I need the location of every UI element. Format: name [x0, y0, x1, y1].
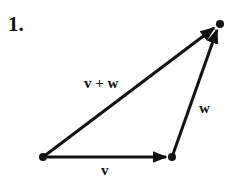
- problem-number: 1.: [8, 12, 24, 36]
- label-w: w: [199, 100, 210, 116]
- tip-point: [216, 20, 224, 28]
- vector-w-arrow: [172, 30, 217, 157]
- label-v: v: [101, 162, 109, 178]
- vector-addition-diagram: 1. v + w w v: [0, 0, 233, 184]
- vector-sum-arrow: [43, 28, 214, 157]
- label-v-plus-w: v + w: [84, 75, 119, 91]
- origin-point: [39, 153, 47, 161]
- v-end-point: [168, 153, 176, 161]
- diagram-canvas: 1. v + w w v: [0, 0, 233, 184]
